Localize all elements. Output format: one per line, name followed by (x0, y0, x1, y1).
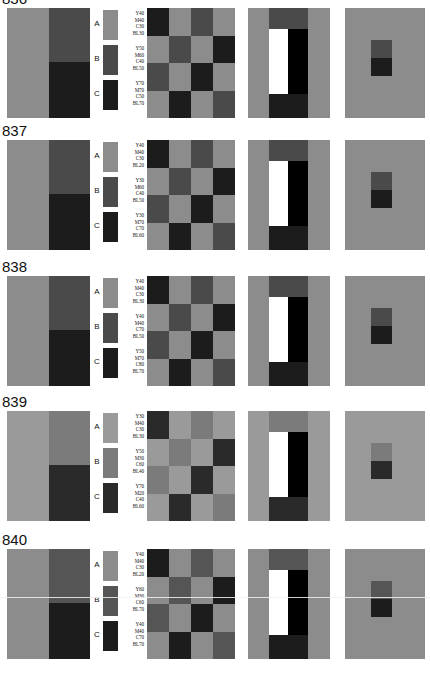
center-square-bottom (371, 599, 392, 617)
legend-cmyk-line: C40 (120, 58, 144, 65)
panel-legend: AY40M40C30BL30BY40M40C70BL50CY50M70C80BL… (92, 276, 144, 386)
checkerboard-cell (169, 140, 191, 168)
checkerboard-cell (169, 91, 191, 119)
legend-cmyk-line: BL70 (120, 100, 144, 107)
checkerboard-cell (213, 168, 235, 196)
legend-cmyk-line: Y30 (120, 413, 144, 420)
legend-entry: CY40M40C70BL70 (92, 621, 144, 651)
checkerboard-cell (169, 276, 191, 304)
legend-cmyk-line: BL70 (120, 641, 144, 648)
figure-sheet: 836AY40M40C30BL30BY50M60C40BL50CY70M70C5… (0, 0, 430, 677)
legend-cmyk-line: M60 (120, 184, 144, 191)
legend-letter: C (92, 221, 102, 231)
checkerboard-cell (213, 91, 235, 119)
legend-cmyk-line: M70 (120, 355, 144, 362)
checkerboard-cell (213, 466, 235, 494)
legend-color-swatch (103, 348, 118, 378)
panel-split-right-bottom (49, 194, 91, 250)
legend-cmyk-values: Y50M60C40BL50 (120, 45, 144, 71)
panel-split-right-top (49, 8, 91, 62)
panel-split-left (7, 276, 49, 386)
checkerboard-cell (191, 411, 213, 439)
checkerboard-cell (169, 168, 191, 196)
legend-cmyk-line: Y50 (120, 45, 144, 52)
legend-cmyk-line: Y30 (120, 177, 144, 184)
legend-letter: C (92, 630, 102, 640)
checkerboard-cell (147, 195, 169, 223)
legend-letter: A (92, 151, 102, 161)
checkerboard-cell (147, 304, 169, 332)
contrast-top-bar (269, 140, 308, 161)
legend-cmyk-line: BL60 (120, 232, 144, 239)
legend-cmyk-line: M30 (120, 455, 144, 462)
white-reference-patch (269, 570, 289, 635)
legend-cmyk-values: Y30M60C40BL50 (120, 177, 144, 203)
legend-cmyk-values: Y40M40C30BL20 (120, 551, 144, 577)
checkerboard-cell (191, 304, 213, 332)
white-reference-patch (269, 161, 289, 226)
checkerboard-cell (169, 331, 191, 359)
legend-letter: A (92, 19, 102, 29)
legend-entry: CY70M70C50BL70 (92, 80, 144, 110)
legend-cmyk-line: BL60 (120, 503, 144, 510)
center-square-bottom (371, 326, 392, 344)
legend-cmyk-line: Y30 (120, 212, 144, 219)
panel-split-field (7, 276, 90, 386)
center-square (371, 581, 392, 617)
checkerboard-cell (213, 632, 235, 660)
checkerboard-cell (191, 91, 213, 119)
checkerboard-cell (191, 577, 213, 605)
legend-cmyk-values: Y70M70C50BL70 (120, 80, 144, 106)
legend-entry: AY40M40C30BL20 (92, 142, 144, 172)
legend-letter: B (92, 186, 102, 196)
legend-cmyk-line: BL30 (120, 30, 144, 37)
contrast-top-bar (269, 8, 308, 29)
checkerboard-cell (213, 8, 235, 36)
legend-entry: AY40M40C30BL30 (92, 278, 144, 308)
figure-row: 837AY40M40C30BL20BY30M60C40BL50CY30M70C7… (0, 126, 430, 261)
legend-color-swatch (103, 413, 118, 443)
checkerboard-cell (169, 494, 191, 522)
legend-cmyk-line: Y40 (120, 621, 144, 628)
contrast-bottom-bar (269, 362, 308, 386)
legend-cmyk-line: Y60 (120, 586, 144, 593)
legend-letter: B (92, 54, 102, 64)
checkerboard-cell (191, 549, 213, 577)
legend-cmyk-line: M40 (120, 558, 144, 565)
legend-cmyk-values: Y70M20C40BL60 (120, 483, 144, 509)
legend-color-swatch (103, 621, 118, 651)
checkerboard-cell (191, 466, 213, 494)
checkerboard-cell (169, 8, 191, 36)
legend-cmyk-line: M30 (120, 593, 144, 600)
checkerboard-cell (213, 223, 235, 251)
checkerboard-cell (213, 331, 235, 359)
panel-legend: AY40M40C30BL20BY30M60C40BL50CY30M70C70BL… (92, 140, 144, 250)
center-square-bottom (371, 190, 392, 208)
checkerboard-cell (147, 63, 169, 91)
checkerboard-cell (147, 140, 169, 168)
checkerboard-cell (213, 63, 235, 91)
white-reference-patch (269, 29, 289, 94)
panel-contrast-bars (248, 140, 330, 250)
center-square (371, 40, 392, 76)
legend-cmyk-line: C60 (120, 599, 144, 606)
checkerboard-cell (191, 331, 213, 359)
panel-strip: AY40M40C30BL20BY60M30C60BL70CY40M40C70BL… (0, 549, 430, 659)
legend-cmyk-line: C30 (120, 564, 144, 571)
legend-entry: BY60M30C60BL70 (92, 586, 144, 616)
legend-cmyk-line: M60 (120, 52, 144, 59)
legend-letter: C (92, 357, 102, 367)
legend-cmyk-values: Y30M40C30BL30 (120, 413, 144, 439)
checkerboard-cell (147, 223, 169, 251)
legend-cmyk-values: Y40M40C70BL50 (120, 313, 144, 339)
panel-split-right-bottom (49, 465, 91, 521)
legend-cmyk-line: Y40 (120, 551, 144, 558)
legend-color-swatch (103, 551, 118, 581)
legend-cmyk-line: Y70 (120, 80, 144, 87)
legend-cmyk-line: C80 (120, 361, 144, 368)
legend-entry: BY40M40C70BL50 (92, 313, 144, 343)
legend-cmyk-line: M40 (120, 420, 144, 427)
panel-contrast-bars (248, 411, 330, 521)
center-square (371, 308, 392, 344)
checkerboard-cell (169, 466, 191, 494)
